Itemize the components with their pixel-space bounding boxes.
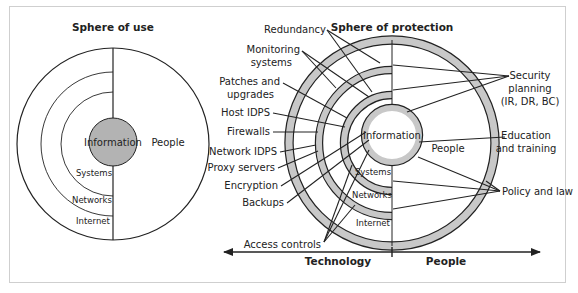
people-label: People [431,143,464,154]
control-security-planning-label: Security [509,70,550,81]
control-proxy-servers-label: Proxy servers [208,162,275,173]
networks-label: Networks [352,190,392,200]
internet-label: Internet [356,218,390,228]
sphere-of-use: Sphere of use Information People Systems… [17,21,209,240]
security-spheres-diagram: Sphere of use Information People Systems… [0,0,578,293]
systems-label: Systems [76,168,113,178]
control-host-idps-label: Host IDPS [221,107,270,118]
control-monitoring-label-2: systems [251,57,292,68]
control-firewalls-label: Firewalls [227,126,270,137]
control-patches-label-2: upgrades [227,89,274,100]
people-label: People [151,137,184,148]
control-patches-label: Patches and [219,76,280,87]
networks-label: Networks [72,195,112,205]
control-network-idps-label: Network IDPS [209,146,277,157]
people-axis-label: People [426,255,466,267]
control-security-planning-label-2: planning [508,83,551,94]
control-encryption-label: Encryption [224,180,278,191]
sphere-of-protection: Sphere of protection Information People … [289,21,495,246]
information-label: Information [84,137,142,148]
sphere-of-use-title: Sphere of use [72,21,154,33]
sphere-of-protection-title: Sphere of protection [331,21,454,33]
internet-label: Internet [76,216,110,226]
control-education-label-2: and training [496,143,557,154]
control-access-controls-label: Access controls [244,239,321,250]
control-security-planning-label-3: (IR, DR, BC) [501,96,560,107]
control-policy-law-label: Policy and law [502,186,573,197]
control-backups-label: Backups [242,197,284,208]
control-education-label: Education [501,130,551,141]
information-label: Information [363,130,421,141]
control-monitoring-label: Monitoring [247,44,300,55]
technology-axis-label: Technology [305,255,372,267]
control-redundancy-label: Redundancy [264,24,326,35]
right-controls: Security planning (IR, DR, BC) Education… [496,70,573,197]
